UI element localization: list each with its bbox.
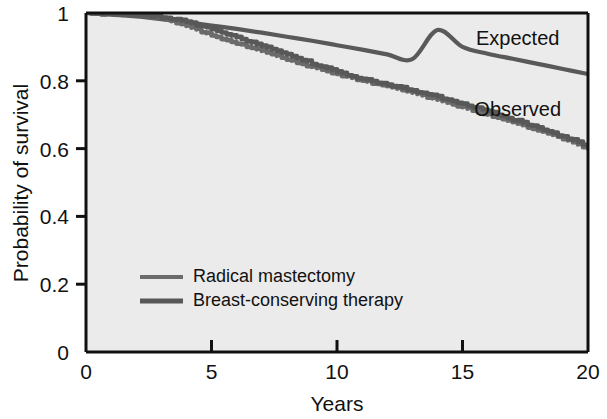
survival-chart-figure: 00.20.40.60.81 05101520 Probability of s… — [0, 0, 607, 419]
y-tick-label: 0.4 — [40, 205, 70, 228]
annotation-expected: Expected — [476, 27, 559, 49]
x-tick-label: 0 — [80, 360, 92, 383]
y-tick-label: 0.6 — [40, 138, 69, 161]
legend-label-0: Radical mastectomy — [193, 266, 355, 286]
annotation-observed: Observed — [474, 98, 561, 120]
x-axis-title: Years — [311, 392, 364, 415]
y-tick-label: 0 — [57, 341, 69, 364]
x-tick-label: 5 — [206, 360, 218, 383]
x-tick-label: 20 — [576, 360, 599, 383]
x-tick-label: 10 — [325, 360, 348, 383]
y-axis-title: Probability of survival — [9, 84, 32, 282]
y-tick-label: 0.2 — [40, 273, 69, 296]
x-tick-label: 15 — [451, 360, 474, 383]
y-tick-label: 0.8 — [40, 70, 69, 93]
y-tick-label: 1 — [57, 2, 69, 25]
y-axis-ticks: 00.20.40.60.81 — [40, 2, 86, 364]
chart-canvas: 00.20.40.60.81 05101520 Probability of s… — [0, 0, 607, 419]
legend-label-1: Breast-conserving therapy — [193, 290, 403, 310]
